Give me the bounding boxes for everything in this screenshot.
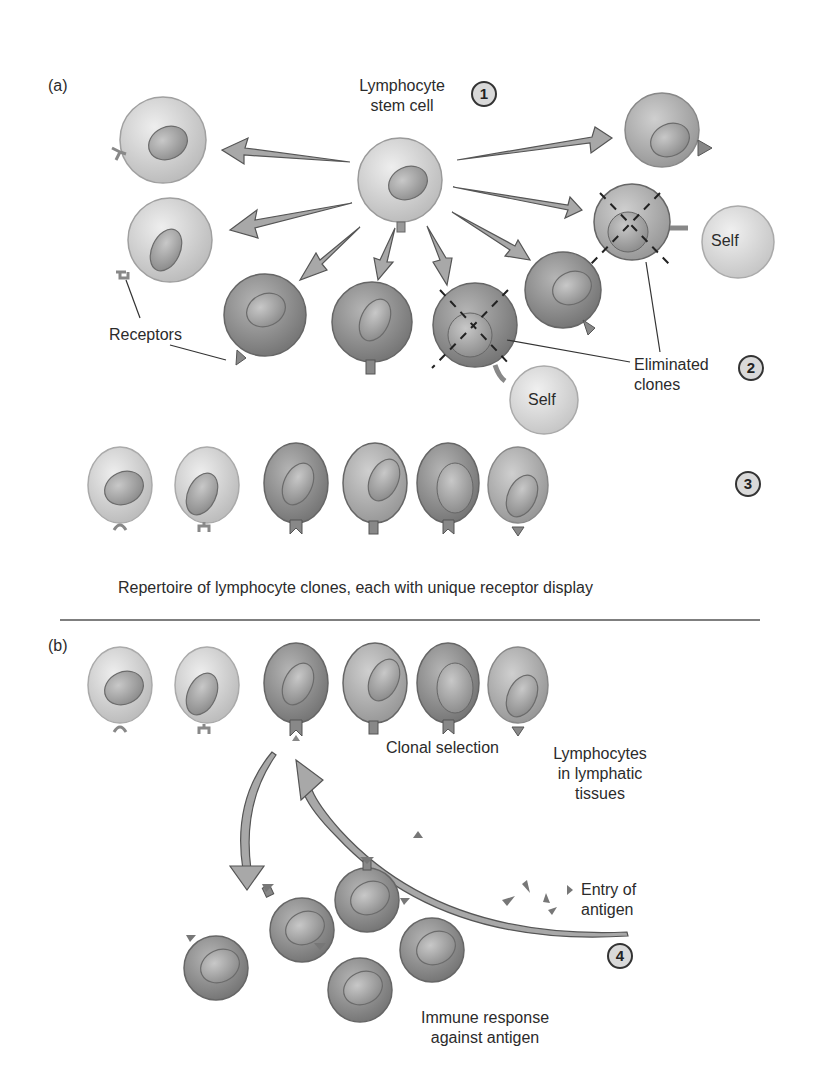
eliminated-clone-2 xyxy=(590,184,688,265)
lymphocytes-line1: Lymphocytes xyxy=(530,744,670,764)
clone-light-2 xyxy=(116,198,212,282)
clone-dark-2 xyxy=(332,282,412,374)
entry-line1: Entry of xyxy=(581,880,636,900)
clone-mid-top-right xyxy=(625,93,712,167)
self-label-2: Self xyxy=(528,391,556,409)
clone-dark-1 xyxy=(224,274,306,365)
repertoire-row xyxy=(88,443,548,536)
step-4-badge: 4 xyxy=(607,943,633,969)
stem-cell xyxy=(358,138,442,232)
panel-b-label: (b) xyxy=(48,636,68,656)
lymphocytes-line3: tissues xyxy=(530,784,670,804)
stem-cell-label-line2: stem cell xyxy=(352,96,452,116)
immune-line2: against antigen xyxy=(400,1028,570,1048)
eliminated-clone-1 xyxy=(432,283,517,381)
entry-line2: antigen xyxy=(581,900,636,920)
effector-clone-cluster xyxy=(184,857,464,1022)
eliminated-line2: clones xyxy=(634,375,709,395)
lymphatic-row xyxy=(88,643,548,741)
step-1-badge: 1 xyxy=(471,81,497,107)
immune-line1: Immune response xyxy=(400,1008,570,1028)
lymphocytes-label: Lymphocytes in lymphatic tissues xyxy=(530,744,670,804)
entry-of-antigen-label: Entry of antigen xyxy=(581,880,636,920)
step-3-badge: 3 xyxy=(735,471,761,497)
lymphocytes-line2: in lymphatic xyxy=(530,764,670,784)
step-2-badge: 2 xyxy=(738,355,764,381)
clonal-selection-label: Clonal selection xyxy=(386,738,499,758)
eliminated-line1: Eliminated xyxy=(634,355,709,375)
clone-dark-3 xyxy=(525,252,601,335)
eliminated-clones-label: Eliminated clones xyxy=(634,355,709,395)
proliferation-arrow xyxy=(230,752,276,890)
clone-light-1 xyxy=(112,97,206,183)
receptors-label: Receptors xyxy=(109,325,182,345)
panel-a-label: (a) xyxy=(48,76,68,96)
self-label-1: Self xyxy=(711,232,739,250)
stem-cell-label: Lymphocyte stem cell xyxy=(352,76,452,116)
stem-cell-label-line1: Lymphocyte xyxy=(352,76,452,96)
clonal-selection-diagram xyxy=(0,0,822,1073)
immune-response-label: Immune response against antigen xyxy=(400,1008,570,1048)
repertoire-caption: Repertoire of lymphocyte clones, each wi… xyxy=(118,578,593,598)
